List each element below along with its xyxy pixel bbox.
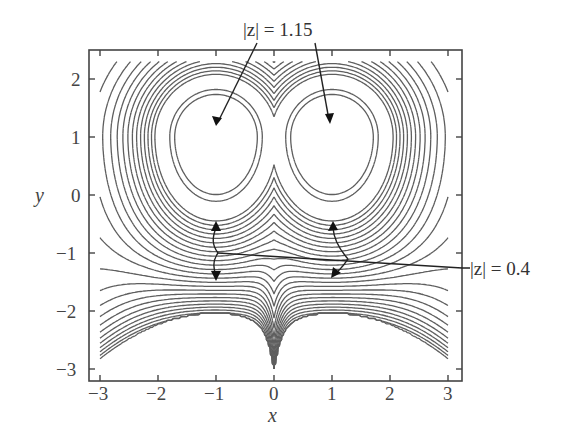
contour-line	[100, 284, 448, 318]
y-tick-label: −3	[56, 360, 76, 379]
y-tick-label: 2	[71, 70, 81, 89]
x-axis-label: x	[268, 404, 277, 427]
contour-line	[155, 74, 393, 221]
x-tick-label: −3	[88, 384, 108, 403]
contour-plot	[0, 0, 565, 446]
annotation-saddle: |z| = 0.4	[470, 258, 530, 280]
x-tick-label: −1	[204, 384, 224, 403]
contour-line	[152, 71, 397, 226]
arrow-max-right	[315, 43, 329, 120]
x-tick-label: 2	[385, 384, 395, 403]
arrow-max-left	[218, 43, 257, 122]
arrowhead-icon	[211, 221, 221, 231]
contour-line	[100, 238, 448, 294]
annotation-max: |z| = 1.15	[243, 19, 313, 41]
x-tick-label: 3	[443, 384, 453, 403]
y-tick-label: 1	[71, 128, 81, 147]
y-tick-label: −1	[56, 244, 76, 263]
contour-line	[123, 62, 425, 257]
contour-line	[170, 89, 378, 201]
contour-line	[100, 269, 448, 307]
arrowhead-icon	[331, 267, 341, 278]
x-tick-label: 1	[327, 384, 337, 403]
x-tick-label: 0	[269, 384, 279, 403]
contour-lines	[100, 62, 448, 369]
y-tick-label: 0	[71, 186, 81, 205]
contour-line	[175, 95, 374, 195]
contour-line	[132, 62, 415, 248]
y-tick-label: −2	[56, 302, 76, 321]
arrowhead-icon	[211, 271, 221, 281]
contour-line	[148, 67, 400, 229]
x-tick-label: −2	[146, 384, 166, 403]
arrow-saddle-left-up	[213, 228, 218, 253]
arrowhead-icon	[325, 113, 334, 124]
arrowhead-icon	[328, 221, 338, 231]
y-axis-label: y	[35, 184, 44, 207]
